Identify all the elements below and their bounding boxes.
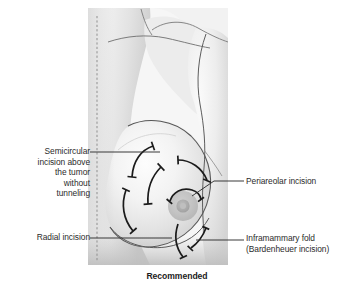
label-semicircular-incision: Semicircular incision above the tumor wi… (4, 146, 90, 199)
label-radial-incision: Radial incision (4, 232, 90, 243)
figure-caption: Recommended (0, 271, 354, 281)
tick-upper-left-inner-a (144, 204, 153, 205)
figure-breast-incisions: Semicircular incision above the tumor wi… (0, 0, 354, 291)
tick-upper-left-outer-a (128, 177, 137, 178)
label-inframammary-fold: Inframammary fold (Bardenheuer incision) (246, 233, 352, 254)
anatomy-panel (88, 8, 228, 265)
nipple-center (180, 203, 186, 209)
left-shading-band (88, 8, 114, 265)
label-periareolar-incision: Periareolar incision (246, 176, 350, 187)
